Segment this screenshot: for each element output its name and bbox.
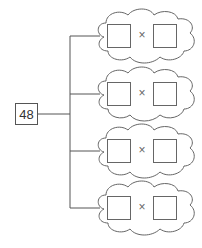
factor-pair-2: × [0,66,202,123]
factor-input-right[interactable] [153,196,177,220]
times-sign: × [136,28,148,42]
times-sign: × [136,200,148,214]
factor-pair-3: × [0,123,202,180]
factor-input-left[interactable] [107,24,131,48]
factor-pair-1: × [0,8,202,65]
factor-input-right[interactable] [153,139,177,163]
factor-pair-4: × [0,180,202,237]
factor-input-right[interactable] [153,82,177,106]
factor-input-left[interactable] [107,82,131,106]
factor-input-right[interactable] [153,24,177,48]
factor-input-left[interactable] [107,139,131,163]
times-sign: × [136,143,148,157]
times-sign: × [136,86,148,100]
factor-input-left[interactable] [107,196,131,220]
